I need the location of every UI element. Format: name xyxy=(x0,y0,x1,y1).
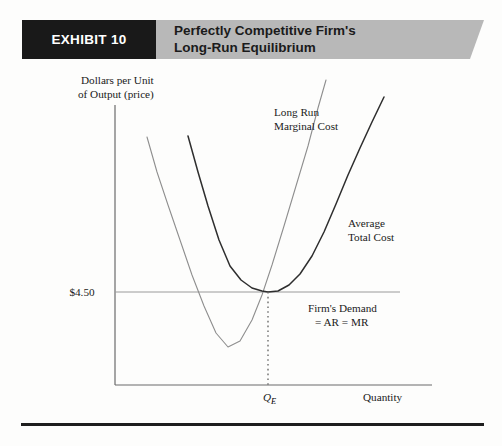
equilibrium-quantity-label: QE xyxy=(263,391,276,406)
price-tick-label: $4.50 xyxy=(69,286,95,298)
exhibit-number-label: EXHIBIT 10 xyxy=(51,32,126,47)
demand-label-line-1: Firm's Demand xyxy=(308,302,377,314)
economics-chart: Dollars per Unit of Output (price) $4.50… xyxy=(0,62,502,407)
equilibrium-quantity-subscript: E xyxy=(270,397,276,406)
x-axis-title: Quantity xyxy=(363,391,403,403)
bottom-divider-rule xyxy=(21,423,484,426)
exhibit-title-line-1: Perfectly Competitive Firm's xyxy=(174,22,356,39)
exhibit-page: EXHIBIT 10 Perfectly Competitive Firm's … xyxy=(0,0,502,446)
lrmc-curve-label-line-2: Marginal Cost xyxy=(274,120,339,132)
chart-container: Dollars per Unit of Output (price) $4.50… xyxy=(0,62,502,407)
y-axis-title-line-2: of Output (price) xyxy=(78,88,154,101)
lrmc-curve-label-line-1: Long Run xyxy=(274,106,319,118)
atc-curve-label-line-2: Total Cost xyxy=(348,231,395,243)
exhibit-title: Perfectly Competitive Firm's Long-Run Eq… xyxy=(174,22,356,56)
exhibit-header-banner: EXHIBIT 10 Perfectly Competitive Firm's … xyxy=(22,20,484,59)
demand-label-line-2: = AR = MR xyxy=(315,316,369,328)
equilibrium-quantity-symbol: Q xyxy=(263,391,271,403)
atc-curve-label-line-1: Average xyxy=(348,217,385,229)
exhibit-number-box: EXHIBIT 10 xyxy=(22,20,156,59)
exhibit-title-line-2: Long-Run Equilibrium xyxy=(174,39,356,56)
y-axis-title-line-1: Dollars per Unit xyxy=(81,74,155,86)
